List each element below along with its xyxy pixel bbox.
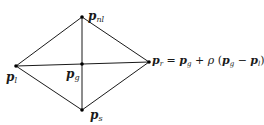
label-ps: ps: [90, 108, 103, 123]
point-ps: [80, 108, 84, 112]
label-pnl: pnl: [88, 9, 105, 24]
equation-pr: pr = pg + ρ (pg − pl): [152, 54, 264, 68]
point-pnl: [80, 15, 84, 19]
edge-pl-pnl: [16, 17, 82, 66]
simplex-diagram: pnl pl pg ps pr = pg + ρ (pg − pl): [0, 0, 264, 125]
point-pg: [80, 62, 84, 66]
label-pl: pl: [6, 70, 17, 85]
edge-pnl-pr: [82, 17, 149, 62]
label-pg: pg: [66, 67, 80, 82]
point-pl: [14, 64, 18, 68]
point-pr: [147, 60, 151, 64]
edge-pr-ps: [82, 62, 149, 110]
